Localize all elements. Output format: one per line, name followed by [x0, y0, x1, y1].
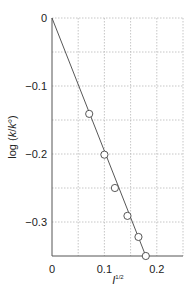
data-point — [101, 151, 108, 158]
y-tick-label: −0.2 — [25, 148, 47, 160]
data-point — [142, 252, 149, 259]
x-tick-label: 0.2 — [149, 263, 164, 275]
fit-line — [52, 18, 146, 256]
y-axis-label-part: log ( — [6, 137, 18, 159]
y-axis-label: log (k/k°) — [6, 115, 18, 159]
x-axis-label: I1/2 — [112, 274, 124, 286]
data-point — [111, 184, 118, 191]
grid — [52, 18, 183, 256]
fit-line-segment — [52, 18, 146, 256]
chart: 00.10.20−0.1−0.2−0.3 log (k/k°) I1/2 — [0, 0, 192, 303]
tick-labels: 00.10.20−0.1−0.2−0.3 — [25, 12, 164, 275]
data-point — [124, 212, 131, 219]
x-tick-label: 0 — [49, 263, 55, 275]
y-tick-label: 0 — [41, 12, 47, 24]
x-tick-label: 0.1 — [97, 263, 112, 275]
data-point — [135, 233, 142, 240]
data-points — [86, 110, 150, 259]
axes — [52, 18, 183, 256]
y-tick-label: −0.1 — [25, 80, 47, 92]
y-tick-label: −0.3 — [25, 216, 47, 228]
y-axis-label-part: °) — [6, 115, 18, 123]
x-axis-label-superscript: 1/2 — [115, 274, 124, 280]
data-point — [86, 110, 93, 117]
